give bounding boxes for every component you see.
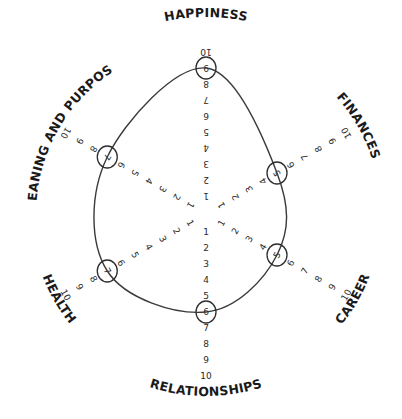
tick-label: 1 [203, 191, 209, 201]
tick-label: 10 [339, 125, 354, 140]
tick-label: 3 [203, 159, 209, 169]
tick-label: 7 [299, 266, 311, 276]
tick-label: 5 [129, 168, 141, 178]
tick-label: 3 [203, 259, 209, 269]
tick-label: 1 [216, 200, 228, 210]
tick-label: 3 [244, 234, 256, 244]
tick-label: 9 [74, 136, 86, 146]
tick-label: 9 [74, 282, 86, 292]
tick-label: 2 [230, 226, 242, 236]
tick-label: 1 [203, 227, 209, 237]
score-outline [94, 68, 287, 312]
tick-label: 3 [244, 184, 256, 194]
tick-label: 9 [203, 355, 209, 365]
tick-label: 5 [129, 250, 141, 260]
axis-label-health: HEALTH [40, 272, 80, 326]
axis-ticks: 1234567891012345678910123456789101234567… [58, 47, 353, 381]
tick-label: 2 [203, 175, 209, 185]
tick-label: 7 [299, 152, 311, 162]
tick-label: 8 [313, 274, 325, 284]
tick-label: 7 [203, 323, 209, 333]
axis-label-happiness: HAPPINESS [163, 5, 249, 24]
tick-label: 2 [171, 192, 183, 202]
tick-label: 9 [327, 282, 339, 292]
tick-label: 3 [157, 184, 169, 194]
tick-label: 4 [143, 176, 155, 186]
tick-label: 5 [203, 127, 209, 137]
tick-label: 8 [203, 79, 209, 89]
tick-label: 1 [216, 218, 228, 228]
tick-label: 2 [171, 226, 183, 236]
tick-label: 5 [203, 291, 209, 301]
tick-label: 6 [203, 111, 209, 121]
tick-label: 10 [200, 371, 212, 381]
axis-label-finances: FINANCES [334, 89, 384, 161]
tick-label: 3 [157, 234, 169, 244]
tick-label: 4 [203, 143, 209, 153]
tick-label: 1 [185, 218, 197, 228]
wheel-of-life-diagram: 1234567891012345678910123456789101234567… [0, 0, 402, 419]
tick-label: 9 [327, 136, 339, 146]
tick-label: 4 [203, 275, 209, 285]
axis-label-career: CAREER [332, 271, 373, 327]
tick-label: 2 [230, 192, 242, 202]
tick-label: 10 [200, 47, 212, 57]
axis-label-meaning-and-purpose: MEANING AND PURPOSE [0, 0, 115, 202]
axis-labels: HAPPINESSFINANCESCAREERRELATIONSHIPSHEAL… [0, 0, 384, 399]
tick-label: 1 [185, 200, 197, 210]
tick-label: 2 [203, 243, 209, 253]
tick-label: 8 [203, 339, 209, 349]
tick-label: 8 [313, 144, 325, 154]
tick-label: 4 [143, 242, 155, 252]
score-curve [94, 57, 287, 323]
tick-label: 7 [203, 95, 209, 105]
